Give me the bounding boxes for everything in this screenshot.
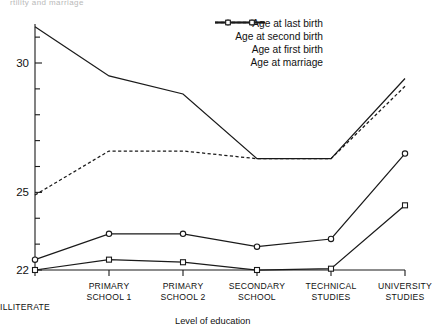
legend-item-sample-none-dashed — [328, 31, 380, 42]
series-marker-2 — [32, 257, 37, 262]
series-marker-2 — [180, 231, 185, 236]
y-axis-tick-label: 30 — [16, 57, 29, 69]
series-marker-2 — [402, 151, 407, 156]
series-line-2 — [35, 154, 405, 260]
series-marker-2 — [254, 244, 259, 249]
legend-item[interactable]: Age at marriage — [214, 56, 380, 69]
series-marker-3 — [181, 260, 186, 265]
series-line-3 — [35, 205, 405, 270]
series-marker-3 — [255, 268, 260, 273]
line-chart: rtility and marriage 222530 Age at last … — [0, 0, 444, 334]
series-marker-3 — [33, 268, 38, 273]
y-axis-tick-label: 25 — [16, 186, 29, 198]
legend-item-label: Age at marriage — [251, 57, 323, 68]
series-marker-3 — [403, 203, 408, 208]
series-marker-2 — [106, 231, 111, 236]
legend-item-sample-circle-solid — [328, 44, 380, 55]
x-axis-category-label: TECHNICAL STUDIES — [292, 281, 370, 302]
series-line-1 — [35, 86, 405, 195]
legend-item-sample-none-solid — [328, 18, 380, 29]
x-axis-category-label: PRIMARY SCHOOL 2 — [144, 281, 222, 302]
legend-item-sample-square-solid — [328, 57, 380, 68]
legend-item-label: Age at first birth — [252, 44, 323, 55]
legend-item[interactable]: Age at second birth — [214, 30, 380, 43]
legend-item-label: Age at second birth — [235, 31, 323, 42]
y-axis-tick-label: 22 — [16, 264, 29, 276]
x-axis-category-label: UNIVERSITY STUDIES — [366, 281, 444, 302]
series-marker-2 — [328, 236, 333, 241]
series-marker-3 — [329, 266, 334, 271]
x-axis-category-label: ILLITERATE — [0, 302, 70, 313]
series-marker-3 — [107, 257, 112, 262]
x-axis-category-label: SECONDARY SCHOOL — [218, 281, 296, 302]
x-axis-title: Level of education — [175, 316, 250, 326]
legend-item[interactable]: Age at first birth — [214, 43, 380, 56]
chart-legend: Age at last birthAge at second birthAge … — [214, 17, 380, 69]
x-axis-category-label: PRIMARY SCHOOL 1 — [70, 281, 148, 302]
